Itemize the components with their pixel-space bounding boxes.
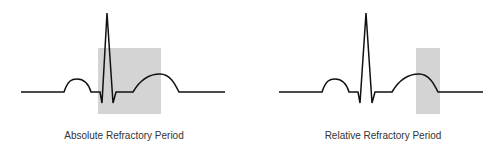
absolute-refractory-shade [98, 48, 161, 114]
absolute-refractory-label: Absolute Refractory Period [64, 130, 184, 141]
relative-refractory-shade [416, 48, 440, 114]
ecg-diagram [0, 0, 498, 144]
panel-relative [279, 13, 483, 114]
panel-absolute [21, 13, 225, 114]
ecg-trace-relative [279, 13, 483, 103]
relative-refractory-label: Relative Refractory Period [325, 130, 442, 141]
